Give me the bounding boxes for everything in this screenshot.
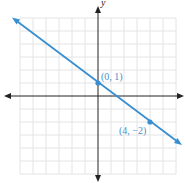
y-axis [95, 6, 101, 182]
point-4-neg2 [147, 119, 152, 124]
x-axis-left-arrow-icon [4, 93, 11, 99]
point-0-1 [95, 80, 100, 85]
graph: y (0, 1) (4, −2) [0, 0, 185, 183]
y-axis-bottom-arrow-icon [95, 175, 101, 182]
x-axis [4, 93, 184, 99]
point-label-0-1: (0, 1) [101, 71, 123, 83]
coordinate-plane: y (0, 1) (4, −2) [0, 0, 185, 183]
point-label-4-neg2: (4, −2) [119, 125, 146, 137]
line-series [12, 18, 182, 146]
x-axis-right-arrow-icon [177, 93, 184, 99]
y-axis-label: y [100, 0, 106, 8]
